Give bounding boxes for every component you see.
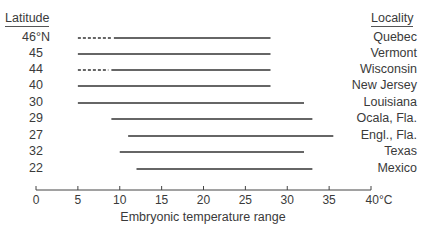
x-tick-label: 30 — [281, 194, 294, 207]
plot-area — [0, 0, 424, 232]
x-tick-label: 20 — [197, 194, 210, 207]
x-tick-label: 10 — [113, 194, 126, 207]
x-axis-label: Embryonic temperature range — [120, 210, 285, 224]
x-tick-label: 5 — [75, 194, 82, 207]
x-tick-label: 25 — [239, 194, 252, 207]
x-tick-label: 15 — [155, 194, 168, 207]
x-tick-label: 0 — [33, 194, 40, 207]
x-tick-label: 40°C — [366, 194, 393, 207]
x-tick-label: 35 — [322, 194, 335, 207]
